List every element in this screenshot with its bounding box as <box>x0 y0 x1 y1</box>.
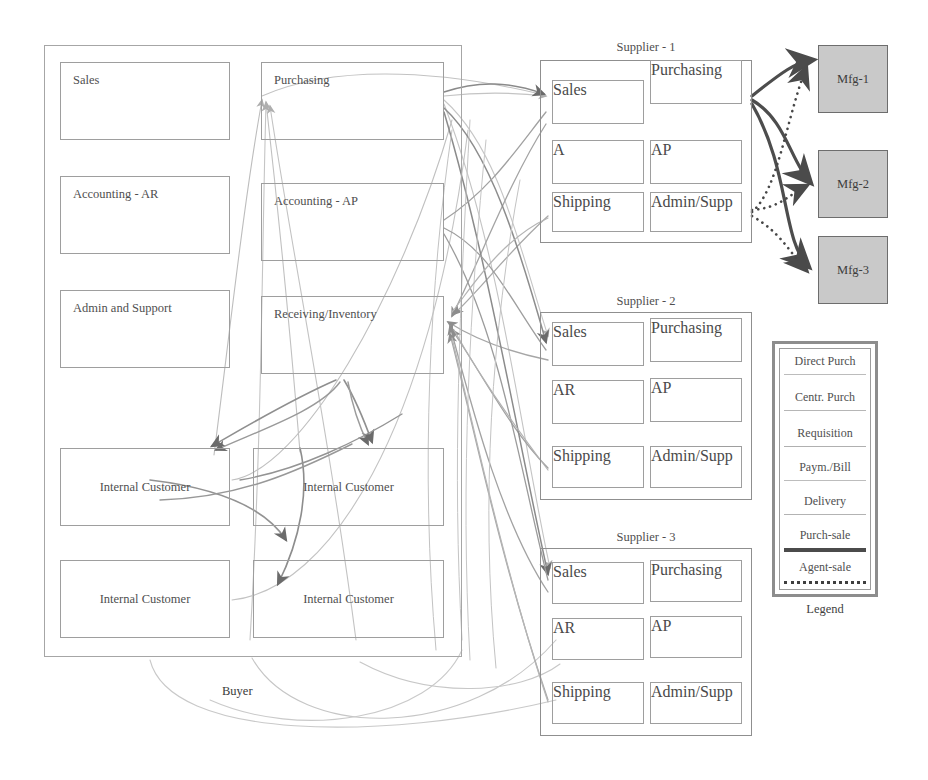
legend-entry-agent-sale: Agent-sale <box>775 560 875 592</box>
legend-entry-direct-purch: Direct Purch <box>775 354 875 386</box>
legend-entry-label: Centr. Purch <box>775 390 875 405</box>
buyer-dept-internal-customer-3[interactable]: Internal Customer <box>60 560 230 638</box>
manufacturer-label: Mfg-1 <box>819 72 887 87</box>
supplier-1-title: Supplier - 1 <box>540 40 752 55</box>
supplier-unit-label: AP <box>651 379 671 396</box>
diagram-canvas: Sales Purchasing Accounting - AR Account… <box>0 0 928 780</box>
legend-entry-requisition: Requisition <box>775 426 875 458</box>
supplier-unit-label: Admin/Supp <box>651 683 733 700</box>
supplier-unit-label: Admin/Supp <box>651 447 733 464</box>
supplier-unit-label: Sales <box>553 563 587 580</box>
legend-entry-label: Purch-sale <box>775 528 875 543</box>
legend-line-sample-agent-sale <box>784 581 866 584</box>
legend-line-sample-direct-purch <box>784 374 866 375</box>
legend-box: Direct Purch Centr. Purch Requisition Pa… <box>772 341 878 597</box>
supplier-3-unit-admin-supp[interactable]: Admin/Supp <box>650 682 742 724</box>
supplier-unit-label: Shipping <box>553 683 611 700</box>
supplier-2-unit-shipping[interactable]: Shipping <box>552 446 644 488</box>
buyer-dept-sales[interactable]: Sales <box>60 62 230 140</box>
manufacturer-mfg-3[interactable]: Mfg-3 <box>818 236 888 304</box>
legend-line-sample-requisition <box>784 446 866 447</box>
supplier-3-unit-shipping[interactable]: Shipping <box>552 682 644 724</box>
supplier-1-unit-admin-supp[interactable]: Admin/Supp <box>650 192 742 232</box>
buyer-dept-accounting-ap[interactable]: Accounting - AP <box>261 183 444 261</box>
buyer-dept-label: Internal Customer <box>61 592 229 607</box>
legend-entry-label: Delivery <box>775 494 875 509</box>
supplier-1-unit-ar[interactable]: A <box>552 140 644 184</box>
buyer-dept-label: Accounting - AR <box>73 187 158 202</box>
buyer-dept-internal-customer-4[interactable]: Internal Customer <box>253 560 444 638</box>
supplier-unit-label: Purchasing <box>651 61 722 78</box>
supplier-3-unit-purchasing[interactable]: Purchasing <box>650 560 742 602</box>
buyer-dept-label: Admin and Support <box>73 301 172 316</box>
buyer-dept-label: Accounting - AP <box>274 194 358 209</box>
buyer-dept-label: Internal Customer <box>254 592 443 607</box>
supplier-1-unit-sales[interactable]: Sales <box>552 80 644 124</box>
supplier-unit-label: AR <box>553 381 575 398</box>
legend-entry-paym-bill: Paym./Bill <box>775 460 875 492</box>
legend-entry-label: Paym./Bill <box>775 460 875 475</box>
supplier-unit-label: Sales <box>553 81 587 98</box>
legend-entry-purch-sale: Purch-sale <box>775 528 875 560</box>
buyer-dept-internal-customer-1[interactable]: Internal Customer <box>60 448 230 526</box>
supplier-unit-label: Purchasing <box>651 319 722 336</box>
supplier-unit-label: AP <box>651 617 671 634</box>
buyer-dept-accounting-ar[interactable]: Accounting - AR <box>60 176 230 254</box>
buyer-dept-label: Purchasing <box>274 73 330 88</box>
supplier-unit-label: Shipping <box>553 447 611 464</box>
supplier-2-unit-sales[interactable]: Sales <box>552 322 644 366</box>
legend-entry-label: Direct Purch <box>775 354 875 369</box>
buyer-dept-internal-customer-2[interactable]: Internal Customer <box>253 448 444 526</box>
buyer-dept-admin-and-support[interactable]: Admin and Support <box>60 290 230 368</box>
supplier-2-unit-purchasing[interactable]: Purchasing <box>650 318 742 362</box>
supplier-2-unit-admin-supp[interactable]: Admin/Supp <box>650 446 742 488</box>
supplier-unit-label: Shipping <box>553 193 611 210</box>
supplier-2-unit-ar[interactable]: AR <box>552 380 644 424</box>
supplier-unit-label: AR <box>553 619 575 636</box>
supplier-2-unit-ap[interactable]: AP <box>650 378 742 422</box>
legend-line-sample-paym-bill <box>784 480 866 481</box>
supplier-3-unit-ar[interactable]: AR <box>552 618 644 660</box>
buyer-dept-label: Internal Customer <box>254 480 443 495</box>
legend-line-sample-delivery <box>784 514 866 515</box>
supplier-1-unit-shipping[interactable]: Shipping <box>552 192 644 232</box>
supplier-3-unit-sales[interactable]: Sales <box>552 562 644 604</box>
buyer-dept-label: Internal Customer <box>61 480 229 495</box>
supplier-unit-label: Admin/Supp <box>651 193 733 210</box>
legend-entry-centr-purch: Centr. Purch <box>775 390 875 422</box>
supplier-unit-label: AP <box>651 141 671 158</box>
supplier-unit-label: A <box>553 141 565 158</box>
manufacturer-label: Mfg-3 <box>819 263 887 278</box>
legend-caption: Legend <box>772 602 878 617</box>
supplier-unit-label: Purchasing <box>651 561 722 578</box>
manufacturer-mfg-1[interactable]: Mfg-1 <box>818 45 888 113</box>
supplier-1-unit-ap[interactable]: AP <box>650 140 742 184</box>
manufacturer-label: Mfg-2 <box>819 177 887 192</box>
buyer-dept-label: Sales <box>73 73 99 88</box>
supplier-2-title: Supplier - 2 <box>540 294 752 309</box>
supplier-1-unit-purchasing[interactable]: Purchasing <box>650 60 742 104</box>
legend-line-sample-purch-sale <box>784 548 866 552</box>
manufacturer-mfg-2[interactable]: Mfg-2 <box>818 150 888 218</box>
legend-line-sample-centr-purch <box>784 410 866 411</box>
legend-entry-delivery: Delivery <box>775 494 875 526</box>
buyer-dept-receiving-inventory[interactable]: Receiving/Inventory <box>261 296 444 374</box>
buyer-dept-purchasing[interactable]: Purchasing <box>261 62 444 140</box>
legend-entry-label: Requisition <box>775 426 875 441</box>
buyer-dept-label: Receiving/Inventory <box>274 307 377 322</box>
buyer-caption: Buyer <box>222 684 253 699</box>
supplier-3-unit-ap[interactable]: AP <box>650 616 742 658</box>
legend-entry-label: Agent-sale <box>775 560 875 575</box>
supplier-unit-label: Sales <box>553 323 587 340</box>
supplier-3-title: Supplier - 3 <box>540 530 752 545</box>
